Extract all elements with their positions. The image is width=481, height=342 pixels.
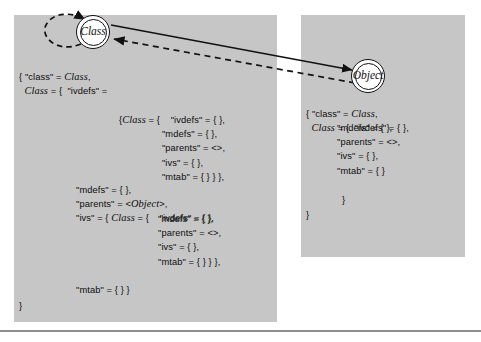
- node-object-inner-circle: Object: [355, 63, 382, 90]
- right-code-inner-brace: }: [342, 193, 345, 207]
- left-code-block-d: "mdefs" = { },"parents" = <>,"ivs" = { }…: [158, 212, 221, 269]
- code-line: "mdefs" = { },: [76, 183, 214, 197]
- code-line: "mdefs" = { },: [119, 127, 225, 141]
- code-line: "mtab" = { } }: [76, 283, 130, 297]
- right-code-block-b: "mdefs" = { },"parents" = <>,"ivs" = { }…: [337, 121, 400, 178]
- node-class-inner-circle: Class: [80, 19, 107, 46]
- node-class-label: Class: [80, 26, 106, 38]
- code-line: {Class = { "ivdefs" = { },: [119, 113, 225, 127]
- code-line: "mtab" = { } } },: [158, 255, 221, 269]
- code-line: "mtab" = { } } },: [119, 170, 225, 184]
- left-code-closing-brace: }: [19, 299, 22, 313]
- code-line: "parents" = <Object>,: [76, 197, 214, 211]
- code-line: "parents" = <>,: [119, 141, 225, 155]
- node-object-label: Object: [353, 70, 384, 82]
- code-line: }: [342, 193, 345, 207]
- code-line: "mtab" = { }: [337, 164, 400, 178]
- right-code-closing-brace: }: [306, 208, 309, 222]
- code-line: "parents" = <>,: [158, 226, 221, 240]
- figure-canvas: Class Object { "class" = Class, Class = …: [0, 0, 481, 342]
- node-class[interactable]: Class: [76, 15, 110, 49]
- code-line: { "class" = Class,: [306, 107, 409, 121]
- code-line: "ivs" = { },: [158, 240, 221, 254]
- code-line: "mdefs" = { },: [337, 121, 400, 135]
- code-line: "ivs" = { },: [337, 149, 400, 163]
- left-code-block-e: "mtab" = { } }: [76, 283, 130, 297]
- code-line: }: [306, 208, 309, 222]
- left-code-block-b: {Class = { "ivdefs" = { }, "mdefs" = { }…: [119, 113, 225, 184]
- code-line: "mdefs" = { },: [158, 212, 221, 226]
- code-line: }: [19, 299, 22, 313]
- code-line: "parents" = <>,: [337, 135, 400, 149]
- code-line: "ivs" = { },: [119, 156, 225, 170]
- node-object[interactable]: Object: [351, 59, 385, 93]
- code-line: Class = { "ivdefs" =: [19, 84, 107, 98]
- footer-divider: [0, 330, 481, 332]
- code-line: { "class" = Class,: [19, 70, 107, 84]
- left-code-block-a: { "class" = Class, Class = { "ivdefs" =: [19, 70, 107, 98]
